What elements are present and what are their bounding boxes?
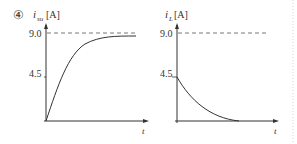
- right-ylabel: i: [165, 8, 168, 20]
- left-xlabel: t: [142, 126, 145, 136]
- right-curve: [177, 77, 239, 121]
- left-plot: ④ i su [A] 9.0 4.5 t: [13, 8, 149, 136]
- left-tick-9: 9.0: [29, 28, 42, 39]
- right-plot: i L [A] 9.0 4.5 t: [160, 8, 279, 136]
- right-y-arrow-icon: [175, 23, 179, 29]
- left-ylabel-sub: su: [37, 15, 44, 23]
- right-tick-4-5: 4.5: [160, 68, 173, 79]
- right-ylabel-sub: L: [168, 15, 173, 23]
- diagram-canvas: ④ i su [A] 9.0 4.5 t i L [A] 9.0 4.5 t: [0, 0, 297, 144]
- left-curve: [46, 36, 136, 121]
- left-ylabel: i: [33, 8, 36, 20]
- left-x-arrow-icon: [143, 119, 149, 123]
- right-ylabel-unit: [A]: [174, 9, 188, 20]
- right-xlabel: t: [274, 126, 277, 136]
- right-x-arrow-icon: [273, 119, 279, 123]
- panel-number: ④: [13, 8, 24, 22]
- left-tick-4-5: 4.5: [29, 68, 42, 79]
- right-tick-9: 9.0: [160, 28, 173, 39]
- left-y-arrow-icon: [44, 23, 48, 29]
- left-ylabel-unit: [A]: [46, 9, 60, 20]
